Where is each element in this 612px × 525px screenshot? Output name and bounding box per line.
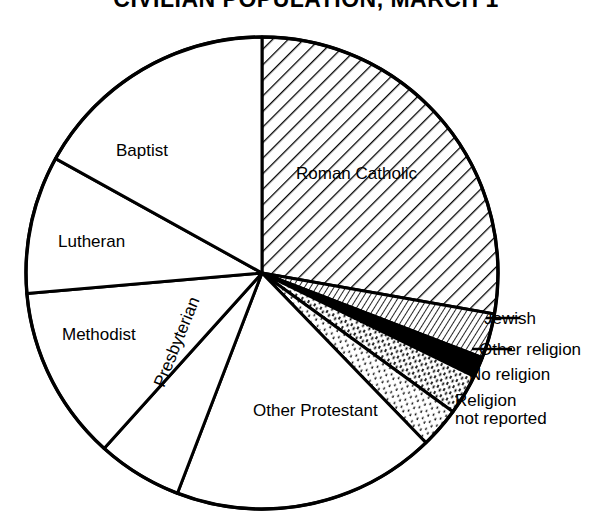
slice-label-religion-not-reported-line2: not reported (455, 409, 547, 428)
pie-slice-group (26, 37, 498, 509)
slice-label-baptist: Baptist (116, 142, 168, 160)
slice-label-jewish: Jewish (484, 310, 536, 328)
slice-label-lutheran: Lutheran (58, 233, 125, 251)
slice-label-religion-not-reported: Religion not reported (455, 392, 605, 429)
slice-label-other-religion: Other religion (479, 341, 581, 359)
pie-chart-svg (0, 0, 612, 525)
slice-label-religion-not-reported-line1: Religion (455, 391, 516, 410)
slice-label-other-protestant: Other Protestant (253, 402, 378, 420)
slice-label-roman-catholic: Roman Catholic (296, 165, 417, 183)
chart-figure: CIVILIAN POPULATION, MARCH 1 (0, 0, 612, 525)
slice-label-methodist: Methodist (62, 326, 136, 344)
slice-label-no-religion: No religion (469, 366, 550, 384)
